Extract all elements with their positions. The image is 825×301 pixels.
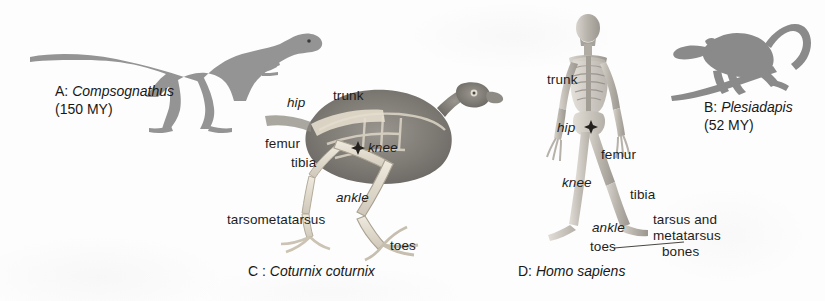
human-label-tarsus-line1: tarsus and bbox=[653, 212, 717, 228]
knee-joint-marker-quail bbox=[351, 141, 365, 155]
quail-label-hip: hip bbox=[287, 95, 305, 111]
panel-d-species: Homo sapiens bbox=[536, 263, 626, 279]
panel-a-caption: A: Compsognathus bbox=[55, 82, 174, 100]
plesiadapis-silhouette bbox=[665, 10, 820, 105]
quail-label-tarsometatarsus: tarsometatarsus bbox=[227, 212, 325, 228]
panel-a-age: (150 MY) bbox=[55, 100, 113, 118]
panel-b-age: (52 MY) bbox=[704, 116, 754, 134]
panel-d-prefix: D: bbox=[518, 263, 532, 279]
panel-d-caption: D: Homo sapiens bbox=[518, 262, 625, 280]
human-label-tarsus-line3: bones bbox=[662, 244, 699, 260]
human-label-knee: knee bbox=[562, 175, 592, 191]
panel-c-caption: C : Coturnix coturnix bbox=[248, 262, 375, 280]
quail-label-trunk: trunk bbox=[333, 88, 364, 104]
quail-label-tibia: tibia bbox=[291, 155, 316, 171]
human-label-ankle: ankle bbox=[592, 220, 625, 236]
quail-label-toes: toes bbox=[390, 238, 416, 254]
quail-skeleton-image bbox=[215, 78, 505, 258]
panel-c-prefix: C : bbox=[248, 263, 266, 279]
quail-label-femur: femur bbox=[265, 136, 300, 152]
panel-b-species: Plesiadapis bbox=[721, 99, 793, 115]
panel-a-species: Compsognathus bbox=[72, 83, 174, 99]
hip-joint-marker-human bbox=[584, 120, 598, 134]
panel-a-prefix: A: bbox=[55, 83, 68, 99]
quail-label-ankle: ankle bbox=[336, 190, 369, 206]
human-label-tibia: tibia bbox=[630, 187, 655, 203]
panel-b-caption: B: Plesiadapis bbox=[704, 98, 793, 116]
human-label-toes: toes bbox=[590, 239, 616, 255]
human-label-femur: femur bbox=[601, 147, 636, 163]
human-label-hip: hip bbox=[557, 120, 575, 136]
quail-label-knee: knee bbox=[368, 140, 398, 156]
panel-c-species: Coturnix coturnix bbox=[270, 263, 375, 279]
panel-b-prefix: B: bbox=[704, 99, 717, 115]
human-label-tarsus-line2: metatarsus bbox=[653, 228, 721, 244]
human-label-trunk: trunk bbox=[547, 72, 578, 88]
comparative-anatomy-figure: A: Compsognathus (150 MY) bbox=[0, 0, 825, 301]
